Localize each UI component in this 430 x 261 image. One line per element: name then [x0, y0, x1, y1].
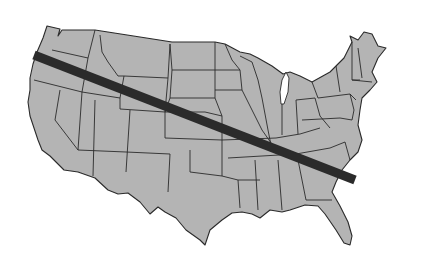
us-map [0, 0, 430, 261]
us-landmass [28, 26, 386, 245]
